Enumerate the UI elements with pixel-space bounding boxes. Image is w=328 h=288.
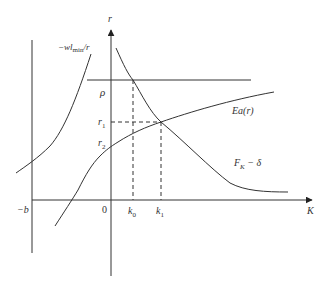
rho-label: ρ xyxy=(99,86,105,98)
r1-label: r1 xyxy=(98,116,106,130)
minus-b-label: −b xyxy=(17,204,29,215)
fk-delta-curve xyxy=(116,48,288,192)
k1-label: k1 xyxy=(156,205,164,219)
ea-label: Ea(r) xyxy=(231,105,254,117)
r2-label: r2 xyxy=(98,137,106,151)
origin-label: 0 xyxy=(102,204,107,215)
wl-min-curve xyxy=(16,54,91,173)
fk-delta-label: FK − δ xyxy=(233,157,262,171)
k0-label: k0 xyxy=(128,205,136,219)
r-axis-label: r xyxy=(108,13,112,24)
k-axis-label: K xyxy=(306,205,315,216)
wl-min-label: −wlmin/r xyxy=(58,42,90,54)
diagram-canvas: r K 0 −b ρ r1 r2 k0 k1 −wlmin/r Ea(r) FK… xyxy=(0,0,328,288)
